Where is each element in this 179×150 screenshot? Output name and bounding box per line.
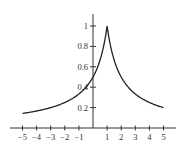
x-tick-label: −4	[32, 132, 42, 142]
y-tick-label: 1	[84, 21, 88, 31]
line-chart: −5−4−3−2−112345 0.20.40.60.81	[0, 0, 179, 150]
x-tick-label: −5	[18, 132, 27, 142]
x-tick-label: 5	[161, 132, 165, 142]
x-tick-label: 2	[119, 132, 123, 142]
x-tick-label: −2	[60, 132, 69, 142]
y-tick-label: 0.2	[77, 103, 88, 113]
x-tick-label: 3	[133, 132, 137, 142]
x-tick-label: −1	[74, 132, 83, 142]
y-tick-label: 0.6	[77, 62, 88, 72]
x-tick-label: 1	[105, 132, 109, 142]
y-tick-label: 0.8	[77, 41, 88, 51]
x-tick-label: 4	[147, 132, 152, 142]
x-tick-label: −3	[46, 132, 55, 142]
